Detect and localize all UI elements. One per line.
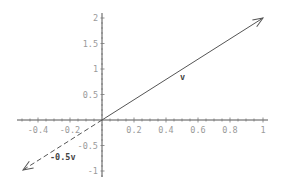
x-tick-label: 0.4 bbox=[158, 125, 173, 135]
y-tick-label: 1 bbox=[93, 64, 98, 74]
vector-neg-half-v-label: -0.5v bbox=[50, 152, 76, 162]
vector-v-label: v bbox=[180, 72, 185, 82]
x-tick-label: 0.8 bbox=[222, 125, 237, 135]
x-tick-label: -0.4 bbox=[28, 125, 48, 135]
x-tick-label: 0.2 bbox=[126, 125, 141, 135]
vector-v bbox=[102, 18, 263, 120]
y-tick-label: 0.5 bbox=[83, 90, 98, 100]
vector-plot: -0.4 -0.2 0.2 0.4 0.6 0.8 1 bbox=[0, 0, 282, 186]
x-tick-label: -0.2 bbox=[60, 125, 80, 135]
x-axis: -0.4 -0.2 0.2 0.4 0.6 0.8 1 bbox=[17, 118, 268, 136]
y-tick-label: -0.5 bbox=[78, 141, 98, 151]
y-tick-label: 2 bbox=[93, 13, 98, 23]
y-tick-label: 1.5 bbox=[83, 39, 98, 49]
y-tick-label: -1 bbox=[88, 166, 98, 176]
y-axis: -1 -0.5 0.5 1 1.5 2 bbox=[78, 13, 105, 177]
x-tick-label: 1 bbox=[260, 125, 265, 135]
x-tick-label: 0.6 bbox=[190, 125, 205, 135]
